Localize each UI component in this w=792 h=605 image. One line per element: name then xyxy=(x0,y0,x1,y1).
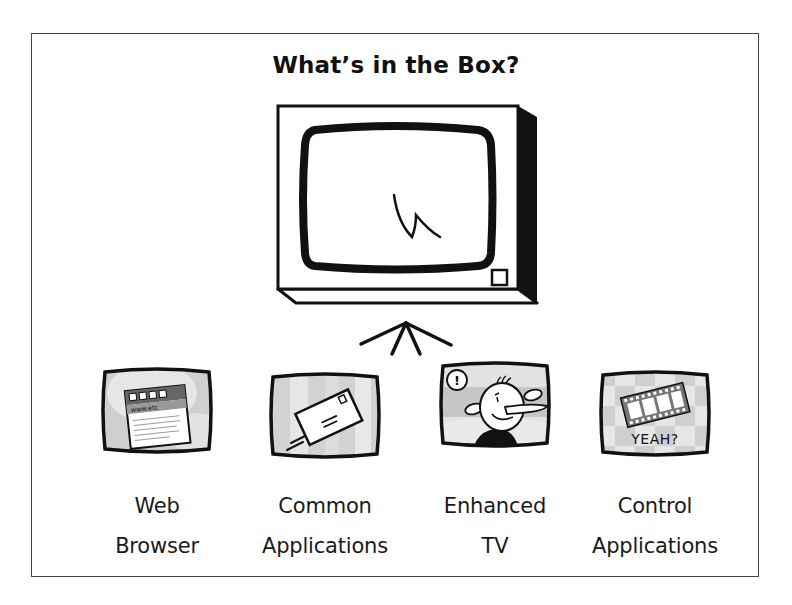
converging-arrow-icon xyxy=(350,310,460,360)
label-web-browser-line2: Browser xyxy=(97,526,217,566)
thumb-common-applications xyxy=(265,368,385,467)
thumb-web-browser: www.etc xyxy=(97,363,217,462)
film-strip-icon: YEAH? xyxy=(595,366,715,461)
label-web-browser-line1: Web xyxy=(97,486,217,526)
label-web-browser: Web Browser xyxy=(97,486,217,566)
thumb-control-applications: YEAH? xyxy=(595,366,715,465)
label-control-applications-line1: Control xyxy=(575,486,735,526)
label-control-applications: Control Applications xyxy=(575,486,735,566)
label-common-applications-line1: Common xyxy=(245,486,405,526)
converging-arrow xyxy=(350,310,460,364)
svg-text:!: ! xyxy=(454,373,460,388)
label-enhanced-tv-line2: TV xyxy=(425,526,565,566)
envelope-icon xyxy=(265,368,385,463)
label-common-applications: Common Applications xyxy=(245,486,405,566)
television-icon xyxy=(270,95,545,310)
web-browser-icon: www.etc xyxy=(97,363,217,458)
label-enhanced-tv-line1: Enhanced xyxy=(425,486,565,526)
diagram-title: What’s in the Box? xyxy=(0,52,792,78)
thumb-enhanced-tv: ! xyxy=(435,357,555,456)
cartoon-face-icon: ! xyxy=(435,357,555,452)
label-enhanced-tv: Enhanced TV xyxy=(425,486,565,566)
label-control-applications-line2: Applications xyxy=(575,526,735,566)
svg-text:YEAH?: YEAH? xyxy=(630,431,678,447)
main-television xyxy=(270,95,545,314)
label-common-applications-line2: Applications xyxy=(245,526,405,566)
